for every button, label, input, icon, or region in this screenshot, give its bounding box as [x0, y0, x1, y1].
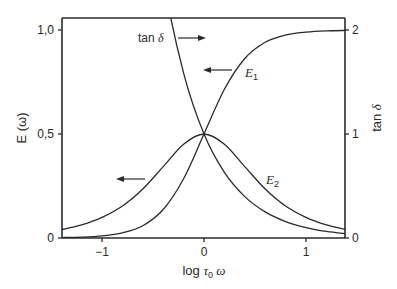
plot-frame [62, 18, 345, 238]
tan-delta-curve [61, 0, 347, 234]
arrowhead-left-icon [203, 67, 211, 73]
e2-curve [61, 134, 347, 230]
y2-tick-label: 1 [352, 127, 359, 141]
y-tick-label: 0 [47, 231, 54, 245]
y-tick-label: 0,5 [37, 127, 54, 141]
x-tick-label: 0 [201, 245, 208, 259]
y2-tick-label: 0 [352, 231, 359, 245]
arrowhead-left-icon [116, 176, 124, 182]
y2-tick-label: 2 [352, 23, 359, 37]
y2-axis-title: tan δ [369, 103, 384, 132]
tan-delta-annotation: tan δ [138, 31, 206, 45]
curves [61, 0, 347, 238]
e2-label: E2 [265, 172, 279, 189]
chart: −10100,51,0012 E (ω) tan δ log τ0 ω tan … [0, 0, 397, 289]
y-axis-title: E (ω) [14, 112, 29, 143]
x-tick-label: −1 [95, 245, 109, 259]
e1-label: E1 [244, 65, 258, 82]
x-tick-label: 1 [303, 245, 310, 259]
y-tick-label: 1,0 [37, 23, 54, 37]
e-left-arrow-annotation [116, 176, 145, 182]
x-axis-title: log τ0 ω [182, 263, 225, 280]
arrowhead-right-icon [198, 35, 206, 41]
tan-delta-label: tan δ [138, 31, 164, 45]
